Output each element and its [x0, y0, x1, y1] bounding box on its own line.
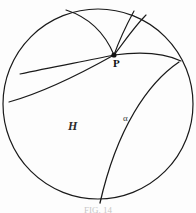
figure-container: P H α FIG. 14 — [0, 0, 196, 213]
geodesic-P-to-left-upper — [20, 55, 114, 74]
figure-caption: FIG. 14 — [0, 205, 196, 213]
geodesic-alpha-right-to-bottom — [100, 62, 179, 203]
point-P-label: P — [113, 58, 120, 69]
curve-alpha-label: α — [123, 114, 128, 123]
geodesic-P-to-right-edge — [114, 53, 181, 61]
region-H-label: H — [68, 120, 77, 132]
poincare-disk-diagram — [0, 0, 196, 213]
disk-boundary-circle — [3, 9, 193, 199]
geodesic-P-to-left-lower — [9, 55, 114, 102]
geodesic-P-to-top-right-outer — [114, 15, 146, 55]
geodesic-P-to-top-left — [66, 10, 114, 55]
